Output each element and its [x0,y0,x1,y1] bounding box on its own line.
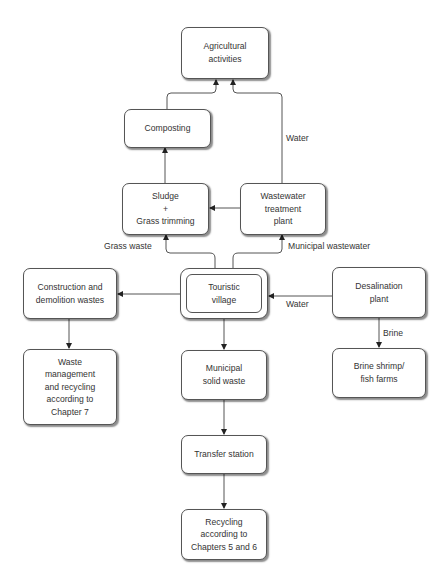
edge-label-water-to-agriculture: Water [286,133,309,144]
node-construction-demolition-wastes: Construction and demolition wastes [23,268,117,319]
node-desalination-plant: Desalination plant [332,267,426,318]
node-waste-management-recycling: Waste management and recycling according… [23,349,117,425]
node-recycling-chapters-5-6: Recycling according to Chapters 5 and 6 [181,509,267,560]
edge-label-brine: Brine [383,328,403,339]
node-municipal-solid-waste: Municipal solid waste [181,350,267,400]
edge-label-grass-waste: Grass waste [104,241,152,252]
edge-label-water-from-desalination: Water [286,299,309,310]
touristic-village-label: Touristic village [186,274,262,313]
edge-label-municipal-wastewater: Municipal wastewater [288,241,370,252]
node-agricultural-activities: Agricultural activities [181,27,269,79]
node-sludge-grass-trimming: Sludge + Grass trimming [122,183,209,235]
node-touristic-village: Touristic village [180,268,268,319]
flowchart-canvas: Agricultural activities Composting Sludg… [0,0,448,579]
node-wastewater-treatment-plant: Wastewater treatment plant [240,183,326,235]
node-brine-shrimp-fish-farms: Brine shrimp/ fish farms [332,348,426,398]
node-composting: Composting [124,109,211,148]
node-transfer-station: Transfer station [181,435,267,474]
